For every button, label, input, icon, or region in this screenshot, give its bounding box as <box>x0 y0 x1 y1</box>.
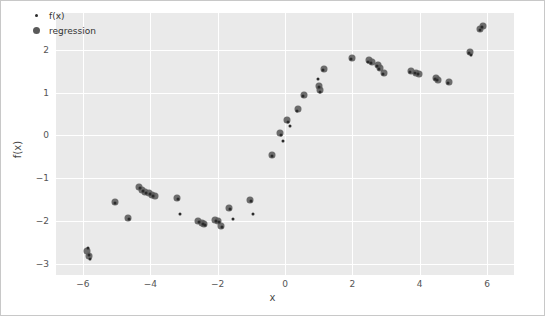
data-point-fx <box>318 86 321 89</box>
data-point-fx <box>409 70 412 73</box>
data-point-fx <box>286 120 289 123</box>
data-point-fx <box>138 186 141 189</box>
data-point-fx <box>436 79 439 82</box>
data-point-fx <box>203 223 206 226</box>
legend-item-fx: f(x) <box>23 8 96 23</box>
gridline-vertical <box>420 13 421 275</box>
y-tick-label: −2 <box>27 216 49 226</box>
gridline-horizontal <box>56 178 514 179</box>
data-point-fx <box>319 90 322 93</box>
data-point-fx <box>481 26 484 29</box>
data-point-fx <box>382 73 385 76</box>
legend-item-regression: regression <box>23 23 96 38</box>
data-point-fx <box>469 53 472 56</box>
data-point-fx <box>252 212 255 215</box>
data-point-fx <box>218 221 221 224</box>
data-point-fx <box>176 198 179 201</box>
x-tick-label: −4 <box>144 279 157 289</box>
gridline-vertical <box>218 13 219 275</box>
data-point-fx <box>295 109 298 112</box>
data-point-fx <box>249 199 252 202</box>
data-point-fx <box>89 258 92 261</box>
gridline-vertical <box>352 13 353 275</box>
legend-marker-regression-icon <box>23 27 49 34</box>
data-point-fx <box>152 194 155 197</box>
y-tick-label: 0 <box>27 130 49 140</box>
data-point-fx <box>447 82 450 85</box>
data-point-fx <box>87 246 90 249</box>
data-point-fx <box>113 202 116 205</box>
data-point-fx <box>369 62 372 65</box>
gridline-horizontal <box>56 221 514 222</box>
data-point-fx <box>229 208 232 211</box>
data-point-fx <box>289 125 292 128</box>
gridline-vertical <box>83 13 84 275</box>
x-tick-label: 6 <box>484 279 490 289</box>
gridline-horizontal <box>56 135 514 136</box>
gridline-vertical <box>150 13 151 275</box>
y-tick-label: −3 <box>27 259 49 269</box>
data-point-fx <box>88 253 91 256</box>
data-point-fx <box>220 225 223 228</box>
data-point-fx <box>349 58 352 61</box>
gridline-horizontal <box>56 93 514 94</box>
data-point-fx <box>417 73 420 76</box>
y-tick-label: 2 <box>27 45 49 55</box>
data-point-fx <box>280 133 283 136</box>
x-tick-label: −6 <box>76 279 89 289</box>
data-point-fx <box>377 67 380 70</box>
data-point-fx <box>321 69 324 72</box>
y-tick-label: −1 <box>27 173 49 183</box>
data-point-fx <box>178 212 181 215</box>
x-tick-label: 2 <box>350 279 356 289</box>
data-point-fx <box>301 94 304 97</box>
data-point-fx <box>282 139 285 142</box>
legend-label-fx: f(x) <box>49 11 65 21</box>
gridline-vertical <box>487 13 488 275</box>
y-axis-label: f(x) <box>12 130 23 170</box>
data-point-fx <box>231 218 234 221</box>
gridline-vertical <box>285 13 286 275</box>
gridline-horizontal <box>56 264 514 265</box>
legend-marker-fx-icon <box>23 14 49 17</box>
y-tick-label: 1 <box>27 88 49 98</box>
x-tick-label: 4 <box>417 279 423 289</box>
legend-label-regression: regression <box>49 26 96 36</box>
data-point-fx <box>317 77 320 80</box>
legend: f(x) regression <box>23 8 96 38</box>
data-point-fx <box>128 218 131 221</box>
plot-area <box>56 13 514 275</box>
data-point-fx <box>478 29 481 32</box>
x-tick-label: −2 <box>211 279 224 289</box>
figure-container: −6−4−20246 210−1−2−3 x f(x) f(x) regress… <box>0 0 545 316</box>
x-tick-label: 0 <box>282 279 288 289</box>
data-point-fx <box>271 155 274 158</box>
gridline-horizontal <box>56 50 514 51</box>
x-axis-label: x <box>1 292 544 303</box>
